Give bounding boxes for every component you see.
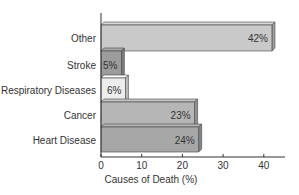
category-label: Cancer bbox=[64, 110, 97, 121]
category-label: Heart Disease bbox=[33, 135, 97, 146]
bar-respiratory-diseases: 6% bbox=[101, 75, 128, 102]
bar-stroke: 5% bbox=[101, 48, 124, 78]
bar-other: 42% bbox=[101, 22, 275, 51]
bar-value-label: 23% bbox=[171, 110, 191, 121]
bar-chart: 42%5%6%23%24% 010203040 OtherStrokeRespi… bbox=[0, 0, 299, 195]
category-label: Other bbox=[71, 33, 97, 44]
bar-heart-disease: 24% bbox=[101, 124, 202, 152]
bar-value-label: 42% bbox=[248, 33, 268, 44]
category-label: Respiratory Diseases bbox=[1, 85, 96, 96]
x-tick-label: 0 bbox=[98, 160, 104, 171]
x-tick-label: 30 bbox=[218, 160, 230, 171]
x-axis-label: Causes of Death (%) bbox=[105, 174, 198, 185]
category-label: Stroke bbox=[67, 60, 96, 71]
x-tick-label: 40 bbox=[258, 160, 270, 171]
bar-value-label: 6% bbox=[107, 85, 122, 96]
category-labels-group: OtherStrokeRespiratory DiseasesCancerHea… bbox=[1, 33, 97, 146]
x-tick-label: 10 bbox=[136, 160, 148, 171]
bar-value-label: 24% bbox=[175, 135, 195, 146]
x-tick-label: 20 bbox=[177, 160, 189, 171]
bar-value-label: 5% bbox=[103, 60, 118, 71]
bars-group: 42%5%6%23%24% bbox=[101, 22, 275, 152]
bar-cancer: 23% bbox=[101, 99, 198, 127]
